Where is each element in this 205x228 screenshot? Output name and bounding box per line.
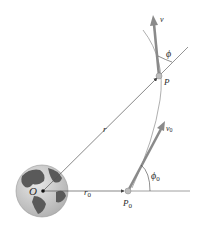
radial-extension-line bbox=[159, 47, 188, 76]
label-v: v bbox=[160, 15, 164, 24]
label-r0: r0 bbox=[84, 187, 92, 199]
origin-dot bbox=[41, 189, 45, 193]
label-origin: O bbox=[29, 185, 37, 197]
label-r: r bbox=[103, 124, 107, 134]
label-p0: P0 bbox=[122, 198, 133, 210]
orbit-diagram: O r r0 P P0 v v0 ϕ ϕ0 bbox=[0, 0, 205, 228]
label-v0: v0 bbox=[166, 124, 173, 133]
radius-line bbox=[43, 78, 157, 191]
point-p bbox=[156, 73, 162, 79]
initial-velocity-arrowhead bbox=[157, 121, 165, 131]
label-phi0: ϕ0 bbox=[151, 170, 160, 183]
point-p0 bbox=[125, 188, 131, 194]
angle-arc-phi0 bbox=[141, 165, 150, 191]
label-phi: ϕ bbox=[166, 48, 171, 59]
label-p: P bbox=[163, 77, 170, 87]
velocity-arrowhead bbox=[150, 15, 158, 26]
